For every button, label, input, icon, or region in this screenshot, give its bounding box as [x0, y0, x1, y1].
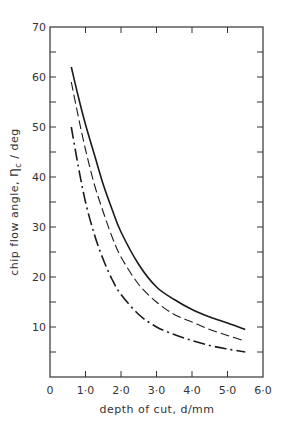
- x-tick-label: 3·0: [148, 384, 166, 397]
- x-tick-label: 6·0: [254, 384, 272, 397]
- x-tick-label: 5·0: [219, 384, 237, 397]
- y-tick-label: 30: [32, 221, 46, 234]
- x-tick-label: 1·0: [77, 384, 95, 397]
- y-axis-label: chip flow angle, ηc / deg: [5, 128, 23, 275]
- y-tick-label: 20: [32, 271, 46, 284]
- x-tick-label: 4·0: [183, 384, 201, 397]
- x-axis-label: depth of cut, d/mm: [99, 403, 214, 416]
- x-tick-label: 0: [47, 384, 54, 397]
- x-tick-label: 2·0: [112, 384, 130, 397]
- y-tick-label: 10: [32, 321, 46, 334]
- axis-ticks: 01·02·03·04·05·06·010203040506070: [32, 21, 272, 397]
- data-curves: [71, 67, 245, 352]
- y-tick-label: 60: [32, 71, 46, 84]
- y-tick-label: 40: [32, 171, 46, 184]
- y-tick-label: 70: [32, 21, 46, 34]
- chart: 01·02·03·04·05·06·010203040506070 depth …: [0, 0, 286, 435]
- y-tick-label: 50: [32, 121, 46, 134]
- curve-dash-dot: [71, 127, 245, 352]
- curve-solid: [71, 67, 245, 330]
- curve-dashed: [71, 82, 245, 341]
